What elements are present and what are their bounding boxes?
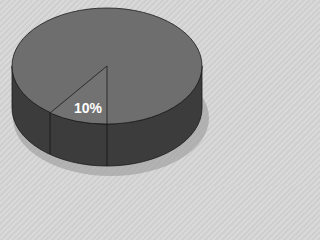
pie-chart-3d: 10%	[0, 0, 216, 186]
slice-label: 10%	[74, 100, 103, 116]
